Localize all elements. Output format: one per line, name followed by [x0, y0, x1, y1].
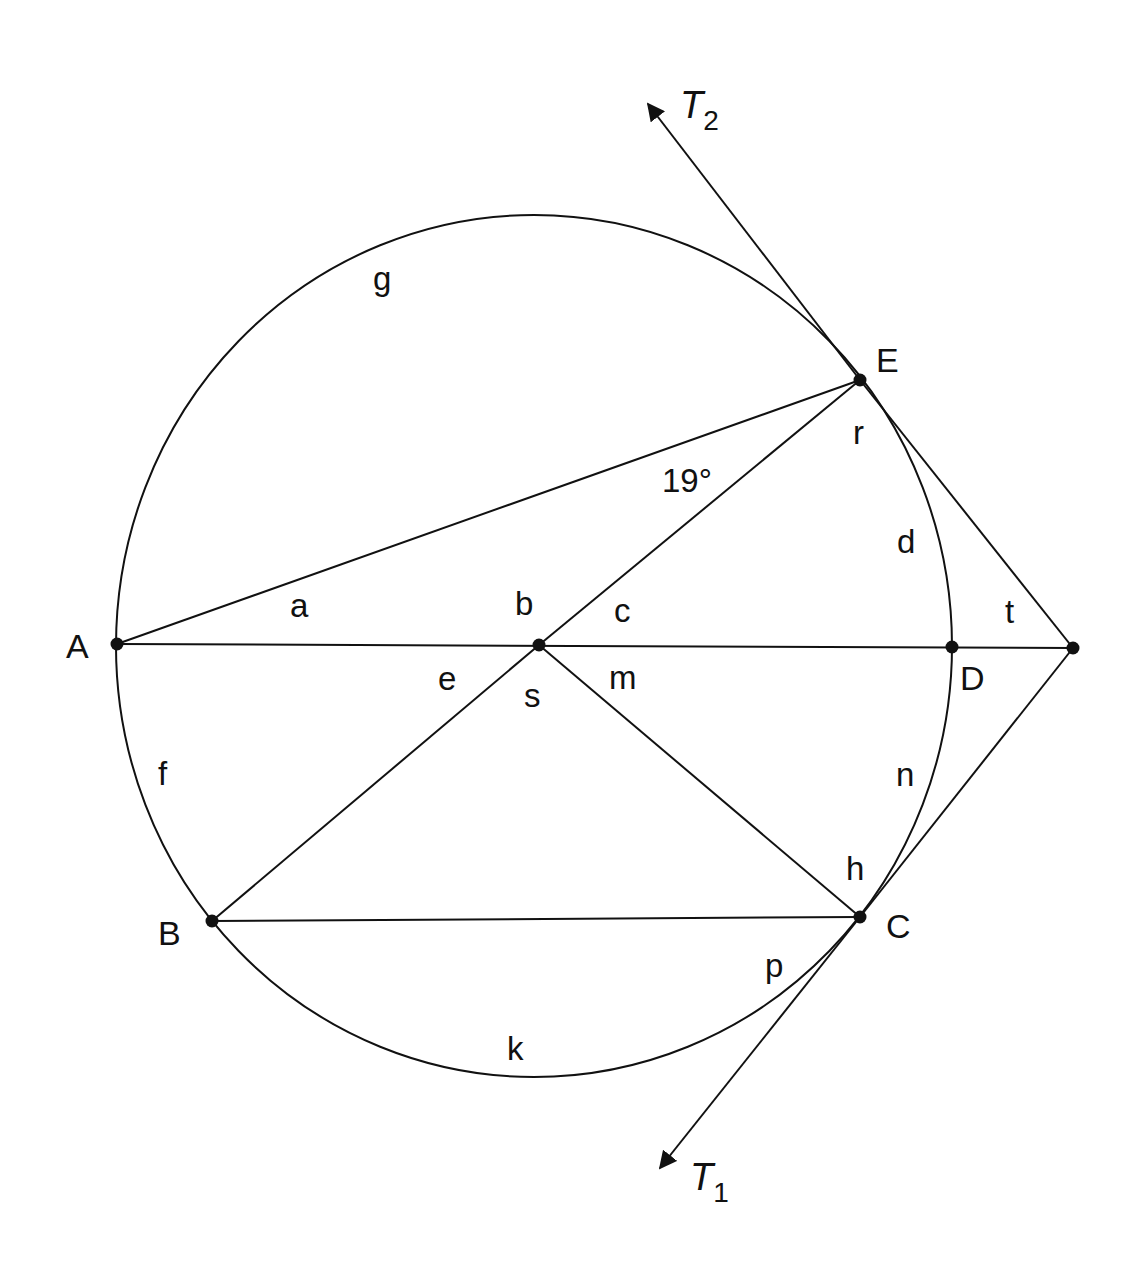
segment-e-p: [860, 380, 1073, 648]
segments: [117, 380, 1073, 921]
angle-label-d: d: [897, 523, 915, 560]
point-dot-a: [111, 638, 124, 651]
angle-label-r: r: [853, 414, 864, 451]
point-dot-b: [206, 915, 219, 928]
angle-label-m: m: [609, 659, 637, 696]
point-dot-d: [946, 641, 959, 654]
angle-label-f: f: [158, 755, 168, 792]
angle-label-g: g: [373, 260, 391, 297]
segment-o-e: [539, 380, 860, 645]
circle-geometry-figure: T2T1 ADEBC abc19°rdtesmfnhpkg: [0, 0, 1138, 1280]
segment-o-b: [212, 645, 539, 921]
angle-label-a: a: [290, 587, 309, 624]
angle-label-c: c: [614, 592, 631, 629]
point-dot-c: [854, 911, 867, 924]
angle-labels: abc19°rdtesmfnhpkg: [158, 260, 1014, 1067]
point-label-c: C: [886, 907, 911, 945]
point-label-a: A: [66, 627, 89, 665]
segment-o-c: [539, 645, 860, 917]
segment-b-c: [212, 917, 860, 921]
angle-label-h: h: [846, 850, 864, 887]
angle-label-19deg: 19°: [662, 462, 712, 499]
points: [111, 374, 1080, 928]
angle-label-s: s: [524, 677, 541, 714]
angle-label-e: e: [438, 660, 456, 697]
point-label-d: D: [960, 659, 985, 697]
point-label-e: E: [876, 341, 899, 379]
segment-a-e: [117, 380, 860, 644]
angle-label-p: p: [765, 947, 783, 984]
tangent-subscript: 2: [703, 105, 719, 136]
angle-label-n: n: [896, 756, 914, 793]
angle-label-k: k: [507, 1030, 524, 1067]
tangent-subscript: 1: [713, 1177, 729, 1208]
angle-label-b: b: [515, 585, 533, 622]
tangent-t1-arrow: [660, 917, 860, 1168]
point-label-b: B: [158, 914, 181, 952]
point-dot-p: [1067, 642, 1080, 655]
angle-label-t: t: [1005, 593, 1014, 630]
tangent-label-t1: T1: [690, 1156, 729, 1208]
segment-a-p: [117, 644, 1073, 648]
point-dot-e: [854, 374, 867, 387]
tangent-label-t2: T2: [680, 84, 719, 136]
point-dot-o: [533, 639, 546, 652]
